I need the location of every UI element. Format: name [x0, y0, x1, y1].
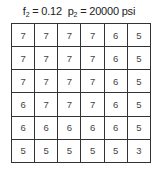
f-value: = 0.12 — [29, 5, 67, 17]
grid-row: 666665 — [12, 116, 151, 139]
grid-row: 777765 — [12, 47, 151, 70]
grid-cell: 3 — [127, 139, 150, 162]
grid-row: 555553 — [12, 139, 151, 162]
grid-cell: 7 — [35, 70, 58, 93]
p-value: = 20000 psi — [77, 5, 135, 17]
grid-cell: 6 — [104, 93, 127, 116]
grid-cell: 7 — [58, 47, 81, 70]
grid-cell: 7 — [81, 70, 104, 93]
grid-cell: 5 — [127, 116, 150, 139]
grid-cell: 5 — [127, 47, 150, 70]
grid-cell: 6 — [35, 116, 58, 139]
value-grid: 777765777765777765677765666665555553 — [11, 23, 151, 163]
grid-cell: 5 — [104, 139, 127, 162]
grid-cell: 7 — [35, 24, 58, 47]
grid-cell: 7 — [81, 93, 104, 116]
grid-cell: 5 — [127, 24, 150, 47]
grid-row: 777765 — [12, 24, 151, 47]
grid-cell: 7 — [81, 24, 104, 47]
grid-cell: 5 — [35, 139, 58, 162]
grid-cell: 7 — [35, 93, 58, 116]
grid-cell: 5 — [81, 139, 104, 162]
grid-cell: 7 — [58, 24, 81, 47]
grid-row: 777765 — [12, 70, 151, 93]
grid-cell: 6 — [12, 116, 35, 139]
grid-cell: 6 — [104, 70, 127, 93]
diagram-title: f2 = 0.12 p2 = 20000 psi — [0, 5, 158, 18]
grid-cell: 6 — [58, 116, 81, 139]
grid-cell: 7 — [81, 47, 104, 70]
grid-cell: 7 — [12, 24, 35, 47]
grid-cell: 7 — [58, 93, 81, 116]
grid-cell: 6 — [12, 93, 35, 116]
grid-cell: 6 — [81, 116, 104, 139]
grid-cell: 6 — [104, 116, 127, 139]
grid-cell: 7 — [35, 47, 58, 70]
grid-cell: 5 — [12, 139, 35, 162]
grid-cell: 5 — [58, 139, 81, 162]
grid-cell: 5 — [127, 93, 150, 116]
grid-cell: 7 — [12, 70, 35, 93]
grid-cell: 7 — [58, 70, 81, 93]
grid-cell: 7 — [12, 47, 35, 70]
grid-row: 677765 — [12, 93, 151, 116]
grid-cell: 6 — [104, 47, 127, 70]
grid-cell: 6 — [104, 24, 127, 47]
grid-cell: 5 — [127, 70, 150, 93]
